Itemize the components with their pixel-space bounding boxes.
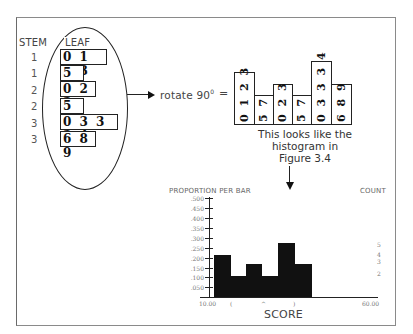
caption-line: This looks like the: [240, 128, 370, 140]
histogram-bar: [214, 255, 231, 297]
y-tick: [205, 268, 213, 269]
y-tick-label: .300: [176, 235, 204, 242]
y-tick: [205, 238, 213, 239]
y-tick-label: .150: [176, 265, 204, 272]
y-axis-label: PROPORTION PER BAR: [169, 187, 251, 195]
y-tick-label: .400: [176, 215, 204, 222]
x-axis-label: SCORE: [264, 308, 303, 321]
stem-value: 2: [31, 85, 37, 96]
y-tick: [205, 208, 213, 209]
histogram-bar: [295, 264, 312, 297]
y-axis: [209, 197, 210, 297]
x-tick-label: ): [293, 300, 295, 307]
y-tick-label: .200: [176, 255, 204, 262]
x-tick-label: 60.00: [362, 300, 379, 307]
y-tick: [205, 228, 213, 229]
rotated-box: 0 1 2 3: [234, 72, 255, 125]
stem-value: 3: [31, 118, 37, 129]
stem-value: 3: [31, 134, 37, 145]
leaf-box: 5 7: [60, 98, 84, 114]
stem-value: 1: [31, 52, 37, 63]
y-tick: [205, 258, 213, 259]
rotated-box: 5 7: [254, 95, 274, 125]
arrow-down-icon: [286, 182, 294, 190]
rotate-label: rotate 900: [160, 88, 214, 101]
stem-value: 2: [31, 101, 37, 112]
stem-header: STEM: [19, 37, 47, 48]
leaf-header: LEAF: [64, 37, 91, 48]
arrow-right-icon: [148, 91, 155, 99]
x-tick-label: 10.00: [199, 300, 216, 307]
leaf-box: 6 8 9: [60, 131, 96, 147]
leaf-box: 0 2 3: [60, 81, 96, 97]
x-tick-label: ^: [261, 300, 266, 307]
y-tick: [205, 277, 213, 278]
x-axis: [200, 297, 378, 298]
histogram-bar: [262, 276, 278, 297]
caption: This looks like the histogram in Figure …: [240, 128, 370, 164]
y-tick-label: .450: [176, 205, 204, 212]
equals-sign: =: [219, 87, 228, 100]
x-tick-label: (: [230, 300, 232, 307]
y-tick-label: .050: [176, 284, 204, 291]
y-tick-label: .100: [176, 274, 204, 281]
leaf-box: 0 1 2 3: [60, 49, 107, 65]
y-tick: [205, 248, 213, 249]
histogram-bar: [246, 264, 262, 297]
caption-line: Figure 3.4: [240, 152, 370, 164]
count-tick-label: 4: [377, 251, 381, 258]
count-tick-label: 2: [377, 270, 381, 277]
stem-value: 1: [31, 68, 37, 79]
rotated-box: 0 2 3: [273, 84, 293, 125]
caption-line: histogram in: [240, 140, 370, 152]
y-tick: [205, 198, 213, 199]
y-tick-label: .350: [176, 225, 204, 232]
y-tick: [205, 287, 213, 288]
leaf-box: 5 7: [60, 65, 84, 81]
histogram-bar: [278, 243, 295, 297]
y-tick-label: .500: [176, 195, 204, 202]
count-tick-label: 5: [377, 241, 381, 248]
y-tick: [205, 218, 213, 219]
y-tick-label: .250: [176, 245, 204, 252]
rotated-box: 6 8 9: [331, 84, 352, 125]
count-tick-label: 3: [377, 258, 381, 265]
rotated-box: 5 7: [292, 95, 312, 125]
arrow-line: [127, 94, 149, 95]
rotated-box: 0 3 3 3 4: [311, 61, 332, 125]
histogram-bar: [231, 276, 246, 297]
y2-axis-label: COUNT: [360, 187, 386, 195]
leaf-box: 0 3 3 3 4: [60, 114, 118, 130]
